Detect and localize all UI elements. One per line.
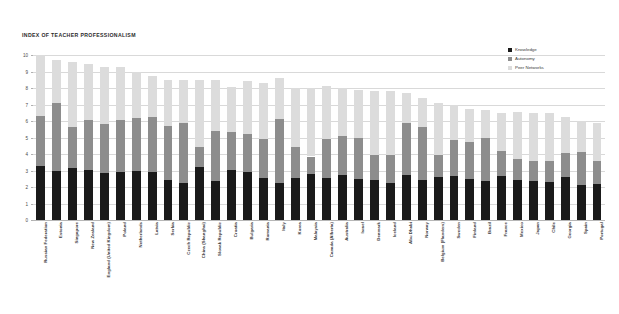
bar-column[interactable] [577,55,586,220]
bar-segment-peer-networks [291,88,300,147]
y-axis-tick-label: 9 [25,69,28,74]
bar-column[interactable] [132,55,141,220]
x-axis-label: Canada (Alberta) [329,222,334,257]
bar-segment-knowledge [418,180,427,220]
bar-segment-peer-networks [36,55,45,116]
bar-segment-knowledge [36,166,45,220]
x-axis-label: China (Shanghai) [201,222,206,258]
bar-column[interactable] [418,55,427,220]
bar-column[interactable] [211,55,220,220]
bar-column[interactable] [116,55,125,220]
bar-column[interactable] [465,55,474,220]
y-axis-tick-label: 5 [25,135,28,140]
bar-segment-knowledge [481,181,490,220]
chart-legend: KnowledgeAutonomyPeer Networks [508,45,544,72]
bar-column[interactable] [450,55,459,220]
bar-column[interactable] [545,55,554,220]
bar-column[interactable] [354,55,363,220]
bar-segment-peer-networks [370,91,379,155]
bar-segment-knowledge [227,170,236,220]
bar-segment-knowledge [291,178,300,220]
bar-segment-peer-networks [354,90,363,137]
bar-column[interactable] [593,55,602,220]
bar-column[interactable] [513,55,522,220]
bar-segment-peer-networks [243,81,252,134]
x-axis-label: Abu Dhabi [408,222,413,244]
bar-segment-knowledge [450,176,459,220]
y-axis-tick-label: 8 [25,86,28,91]
bar-column[interactable] [84,55,93,220]
bar-column[interactable] [148,55,157,220]
bar-column[interactable] [307,55,316,220]
x-axis-label: Sweden [456,222,461,239]
bar-column[interactable] [338,55,347,220]
bar-column[interactable] [100,55,109,220]
bar-segment-autonomy [275,119,284,183]
bar-segment-peer-networks [322,86,331,139]
bar-column[interactable] [402,55,411,220]
bar-segment-autonomy [116,120,125,172]
x-axis-label: Netherlands [138,222,143,247]
bar-segment-autonomy [322,139,331,178]
bar-segment-peer-networks [116,67,125,121]
bar-column[interactable] [179,55,188,220]
bar-column[interactable] [291,55,300,220]
bar-column[interactable] [68,55,77,220]
bar-column[interactable] [164,55,173,220]
bar-column[interactable] [243,55,252,220]
legend-swatch-icon [508,48,512,52]
bar-segment-knowledge [545,182,554,220]
bar-segment-peer-networks [418,98,427,127]
bar-segment-peer-networks [164,80,173,126]
bar-segment-knowledge [307,174,316,220]
x-axis-label: England (United Kingdom) [106,222,111,277]
x-axis-label: Georgia [567,222,572,239]
legend-item[interactable]: Autonomy [508,54,544,63]
bar-segment-knowledge [259,178,268,220]
x-axis-label: Poland [122,222,127,237]
bar-segment-peer-networks [275,78,284,119]
bar-segment-peer-networks [402,93,411,123]
bar-column[interactable] [481,55,490,220]
bar-segment-knowledge [211,181,220,220]
bar-segment-knowledge [116,172,125,220]
bar-segment-knowledge [243,172,252,220]
bar-segment-peer-networks [434,103,443,155]
legend-item[interactable]: Knowledge [508,45,544,54]
bar-column[interactable] [561,55,570,220]
bar-column[interactable] [259,55,268,220]
x-axis-label: Spain [583,222,588,234]
bar-segment-knowledge [338,175,347,220]
bar-column[interactable] [275,55,284,220]
bar-column[interactable] [52,55,61,220]
bar-segment-autonomy [481,138,490,181]
bar-segment-autonomy [148,117,157,172]
x-axis-label: Australia [344,222,349,241]
bar-segment-knowledge [275,183,284,220]
bar-segment-autonomy [370,155,379,180]
bar-column[interactable] [434,55,443,220]
bar-column[interactable] [370,55,379,220]
bar-column[interactable] [195,55,204,220]
bar-segment-peer-networks [497,113,506,151]
gridline [33,220,605,221]
bar-column[interactable] [36,55,45,220]
bar-segment-knowledge [577,185,586,220]
x-axis-label: New Zealand [90,222,95,249]
bar-segment-autonomy [545,161,554,182]
legend-item[interactable]: Peer Networks [508,63,544,72]
bar-segment-autonomy [227,132,236,170]
bar-column[interactable] [386,55,395,220]
x-axis-label: Estonia [58,222,63,238]
bar-column[interactable] [529,55,538,220]
x-axis-label: Bulgaria [249,222,254,240]
bar-segment-autonomy [243,134,252,172]
bar-column[interactable] [322,55,331,220]
bar-segment-peer-networks [100,67,109,125]
bar-column[interactable] [227,55,236,220]
bar-segment-knowledge [434,177,443,220]
bar-segment-peer-networks [386,91,395,155]
x-axis-label: Mexico [519,222,524,237]
bar-column[interactable] [497,55,506,220]
bar-segment-knowledge [370,180,379,220]
